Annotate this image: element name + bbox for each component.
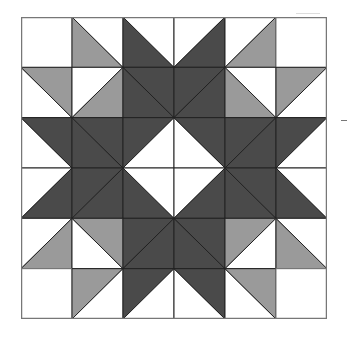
quilt-pattern [21, 17, 327, 319]
quilt-svg [21, 17, 327, 319]
quilt-square-white [276, 269, 327, 319]
quilt-square-white [21, 17, 72, 67]
quilt-square-white [21, 269, 72, 319]
faint-mark [296, 13, 320, 14]
quilt-square-white [276, 17, 327, 67]
dash-mark [341, 120, 347, 121]
